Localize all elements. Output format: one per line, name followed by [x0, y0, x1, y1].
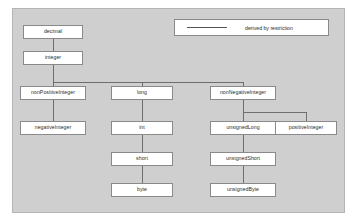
edge-integer-bus: [53, 82, 243, 83]
edge-nonnegativeinteger-unsignedlong: [243, 112, 244, 121]
node-label: byte: [137, 187, 147, 192]
edge-integer-stem: [53, 65, 54, 82]
node-label: long: [137, 90, 147, 95]
node-label: decimal: [44, 29, 62, 34]
diagram-canvas: derived by restriction decimal integer n…: [0, 0, 356, 224]
node-integer[interactable]: integer: [23, 51, 83, 65]
node-positiveinteger[interactable]: positiveInteger: [275, 121, 337, 135]
node-label: integer: [45, 55, 61, 60]
edge-unsignedlong-unsignedshort: [243, 135, 244, 152]
node-negativeinteger[interactable]: negativeInteger: [20, 121, 86, 135]
edge-nonnegativeinteger-positiveinteger: [306, 112, 307, 121]
node-label: nonPositiveInteger: [31, 90, 75, 95]
node-short[interactable]: short: [111, 152, 173, 166]
legend: derived by restriction: [174, 19, 329, 36]
node-label: negativeInteger: [35, 125, 72, 130]
node-label: unsignedShort: [226, 156, 260, 161]
edge-nonnegativeinteger-bus: [243, 112, 306, 113]
node-nonpositiveinteger[interactable]: nonPositiveInteger: [20, 86, 86, 100]
node-label: short: [136, 156, 148, 161]
legend-label: derived by restriction: [245, 25, 293, 31]
node-label: unsignedByte: [227, 187, 259, 192]
node-label: unsignedLong: [226, 125, 259, 130]
edge-unsignedshort-unsignedbyte: [243, 166, 244, 183]
edge-int-short: [142, 135, 143, 152]
node-byte[interactable]: byte: [111, 183, 173, 197]
edge-nonpositiveinteger-negativeinteger: [53, 100, 54, 121]
node-unsignedbyte[interactable]: unsignedByte: [210, 183, 276, 197]
edge-nonnegativeinteger-stem: [243, 100, 244, 112]
edge-short-byte: [142, 166, 143, 183]
diagram-panel: derived by restriction decimal integer n…: [12, 8, 345, 213]
edge-long-int: [142, 100, 143, 121]
node-unsignedshort[interactable]: unsignedShort: [210, 152, 276, 166]
legend-line-icon: [187, 27, 227, 28]
node-label: nonNegativeInteger: [220, 90, 266, 95]
node-nonnegativeinteger[interactable]: nonNegativeInteger: [210, 86, 276, 100]
node-unsignedlong[interactable]: unsignedLong: [210, 121, 276, 135]
node-label: positiveInteger: [289, 125, 324, 130]
node-decimal[interactable]: decimal: [23, 25, 83, 39]
node-int[interactable]: int: [111, 121, 173, 135]
node-label: int: [139, 125, 145, 130]
node-long[interactable]: long: [111, 86, 173, 100]
